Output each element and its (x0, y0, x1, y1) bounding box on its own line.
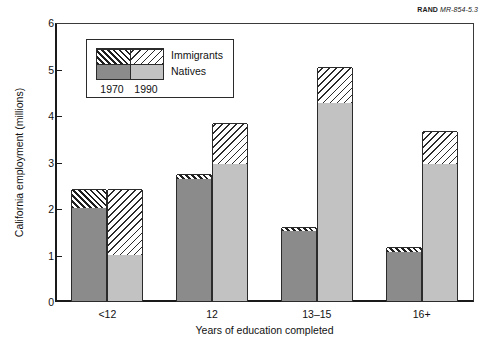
bar-segment-immigrants-1990-<12 (108, 189, 142, 255)
bar-1970-12 (176, 175, 212, 302)
x-tick-label-12: 12 (172, 308, 252, 320)
x-tick-label-16+: 16+ (382, 308, 462, 320)
y-tick-label-4: 4 (36, 111, 54, 121)
legend-swatch-immigrants-1970 (97, 49, 130, 64)
legend-swatch-natives-1990 (130, 64, 163, 79)
x-tick-label-<12: <12 (67, 308, 147, 320)
chart-legend: Immigrants Natives 1970 1990 (86, 39, 234, 98)
y-tick-mark-1 (56, 256, 62, 257)
legend-label-year-1970: 1970 (95, 83, 129, 95)
bar-segment-natives-1990-13–15 (318, 103, 352, 301)
x-tick-label-13–15: 13–15 (277, 308, 357, 320)
legend-label-natives: Natives (171, 65, 206, 77)
bar-segment-natives-1970-16+ (387, 252, 421, 301)
y-axis-title: California employment (millions) (12, 23, 26, 302)
bar-1990-12 (212, 124, 248, 302)
bar-segment-immigrants-1990-13–15 (318, 67, 352, 103)
y-tick-mark-4 (56, 116, 62, 117)
bar-1970-13–15 (281, 228, 317, 302)
legend-swatch-grid (96, 48, 164, 80)
bar-segment-immigrants-1970-12 (177, 174, 211, 179)
y-tick-mark-5 (56, 70, 62, 71)
bar-segment-natives-1970-12 (177, 179, 211, 301)
bar-segment-immigrants-1970-16+ (387, 247, 421, 252)
y-tick-label-0: 0 (36, 297, 54, 307)
bar-1990-<12 (107, 190, 143, 302)
bar-segment-immigrants-1970-13–15 (282, 227, 316, 232)
x-axis-title: Years of education completed (55, 324, 474, 336)
bar-segment-natives-1990-16+ (423, 164, 457, 301)
y-tick-mark-3 (56, 163, 62, 164)
legend-swatch-immigrants-1990 (130, 49, 163, 64)
bar-segment-natives-1990-12 (213, 164, 247, 301)
bar-1970-<12 (71, 190, 107, 302)
y-tick-label-2: 2 (36, 204, 54, 214)
legend-label-year-1990: 1990 (129, 83, 163, 95)
y-tick-mark-2 (56, 209, 62, 210)
bar-segment-immigrants-1970-<12 (72, 189, 106, 208)
bar-segment-immigrants-1990-12 (213, 123, 247, 164)
bar-1990-16+ (422, 132, 458, 302)
bar-segment-natives-1970-<12 (72, 208, 106, 301)
source-credit: RAND MR-854-5.3 (417, 6, 478, 13)
bar-1990-13–15 (317, 68, 353, 302)
bar-1970-16+ (386, 248, 422, 302)
y-tick-label-3: 3 (36, 158, 54, 168)
y-tick-label-5: 5 (36, 65, 54, 75)
bar-segment-natives-1990-<12 (108, 255, 142, 302)
legend-swatch-natives-1970 (97, 64, 130, 79)
source-code: MR-854-5.3 (440, 6, 478, 13)
source-organization: RAND (417, 6, 438, 13)
y-tick-label-6: 6 (36, 18, 54, 28)
legend-label-immigrants: Immigrants (171, 49, 223, 61)
y-tick-label-1: 1 (36, 251, 54, 261)
bar-segment-immigrants-1990-16+ (423, 131, 457, 164)
bar-segment-natives-1970-13–15 (282, 231, 316, 301)
